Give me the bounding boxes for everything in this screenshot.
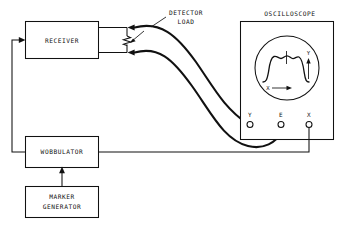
marker-generator-box	[26, 187, 99, 218]
wobbulator-label: WOBBULATOR	[41, 148, 84, 155]
marker-generator-label-line1: MARKER	[49, 193, 75, 200]
terminal-e-jack[interactable]	[278, 122, 284, 128]
receiver-label: RECEIVER	[45, 37, 79, 44]
terminal-y-label: Y	[248, 111, 252, 118]
wire-wobbulator-to-receiver	[12, 37, 26, 152]
block-wobbulator: WOBBULATOR	[26, 137, 99, 168]
resistor-zigzag-icon	[123, 36, 130, 46]
terminal-e-label: E	[279, 111, 283, 118]
terminal-y-jack[interactable]	[247, 122, 253, 128]
block-oscilloscope: OSCILLOSCOPE X Y Y	[241, 10, 334, 140]
wire-marker-to-wobbulator	[59, 167, 65, 187]
block-marker-generator: MARKER GENERATOR	[26, 187, 99, 218]
marker-generator-label-line2: GENERATOR	[43, 203, 81, 210]
detector-load-label-line1: DETECTOR	[169, 9, 203, 16]
cable-to-y-terminal	[135, 26, 248, 124]
arrowhead-left-top-icon	[128, 24, 135, 30]
terminal-x-label: X	[307, 111, 311, 118]
arrowhead-right-icon	[19, 37, 26, 43]
terminal-x-jack[interactable]	[306, 122, 312, 128]
block-diagram: RECEIVER WOBBULATOR MARKER GENERATOR	[0, 0, 346, 232]
diagram-canvas: RECEIVER WOBBULATOR MARKER GENERATOR	[0, 0, 346, 232]
detector-load-callout: DETECTOR LOAD	[151, 9, 203, 27]
oscilloscope-box	[241, 22, 334, 140]
arrowhead-left-bottom-icon	[128, 49, 135, 55]
block-receiver: RECEIVER	[26, 22, 99, 59]
detector-load-label-line2: LOAD	[177, 18, 194, 25]
oscilloscope-title: OSCILLOSCOPE	[264, 10, 315, 17]
